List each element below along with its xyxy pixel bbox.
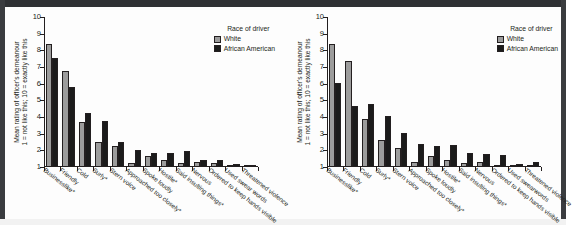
bar-group — [77, 17, 93, 167]
x-axis-label: Surly* — [374, 167, 391, 183]
legend-left: Race of driver White African American — [214, 25, 275, 54]
top-border-band — [0, 0, 566, 7]
x-axis-label: Surly* — [91, 167, 108, 183]
bar-african-american — [151, 153, 157, 167]
y-axis-tick-label: 10 — [33, 13, 41, 21]
bar-african-american — [200, 160, 206, 167]
bar-african-american — [69, 87, 75, 168]
legend-swatch-white-icon — [497, 36, 504, 43]
y-axis-tick-label: 7 — [37, 63, 41, 71]
legend-right: Race of driver White African American — [497, 25, 558, 54]
y-axis-tick-label: 9 — [37, 30, 41, 38]
y-axis-title-line1: Mean rating of officer's demeanour — [296, 41, 304, 143]
bar-group — [110, 17, 126, 167]
y-axis-tick-label: 6 — [320, 80, 324, 88]
y-axis-tick-label: 3 — [37, 130, 41, 138]
bar-group — [176, 17, 192, 167]
chart-panel-right: Mean rating of officer's demeanour 1 = n… — [283, 7, 566, 219]
bar-african-american — [401, 133, 407, 167]
legend-item-white: White — [497, 35, 558, 42]
bar-group — [376, 17, 392, 167]
bar-group — [93, 17, 109, 167]
x-axis-labels-left: Businesslike*FriendlyColdSurly*Stern voi… — [44, 167, 274, 219]
y-axis-tick-label: 5 — [37, 97, 41, 105]
y-axis-title-left: Mean rating of officer's demeanour 1 = n… — [4, 17, 38, 167]
legend-label-white: White — [507, 35, 524, 42]
y-axis-tick-label: 7 — [320, 63, 324, 71]
y-axis-tick-label: 3 — [320, 130, 324, 138]
bar-african-american — [434, 146, 440, 167]
bar-african-american — [52, 58, 58, 168]
bar-group — [426, 17, 442, 167]
bar-african-american — [184, 151, 190, 167]
bar-group — [327, 17, 343, 167]
bar-group — [409, 17, 425, 167]
legend-label-african-american: African American — [224, 45, 275, 52]
bar-african-american — [385, 116, 391, 167]
legend-item-african-american: African American — [214, 45, 275, 52]
bar-group — [360, 17, 376, 167]
y-axis-tick-label: 10 — [316, 13, 324, 21]
legend-title: Race of driver — [497, 25, 558, 32]
bar-african-american — [467, 153, 473, 168]
bar-group — [442, 17, 458, 167]
bar-group — [143, 17, 159, 167]
y-axis-tick-label: 4 — [37, 113, 41, 121]
chart-panel-left: Mean rating of officer's demeanour 1 = n… — [0, 7, 283, 219]
legend-item-african-american: African American — [497, 45, 558, 52]
y-axis-title-line2: 1 = not like this; 10 = exactly like thi… — [304, 38, 312, 145]
bar-african-american — [167, 153, 173, 167]
x-axis-labels-right: Businesslike*FriendlyColdSurly*Stern voi… — [327, 167, 557, 219]
bar-african-american — [335, 83, 341, 167]
y-axis-title-line1: Mean rating of officer's demeanour — [13, 41, 21, 143]
y-axis-tick-label: 5 — [320, 97, 324, 105]
legend-label-african-american: African American — [507, 45, 558, 52]
bar-african-american — [118, 142, 124, 168]
legend-swatch-white-icon — [214, 36, 221, 43]
bar-group — [126, 17, 142, 167]
bar-group — [475, 17, 491, 167]
y-axis-tick-label: 2 — [37, 147, 41, 155]
chart-panels: Mean rating of officer's demeanour 1 = n… — [0, 7, 566, 219]
bar-african-american — [85, 113, 91, 167]
bar-african-american — [500, 155, 506, 167]
y-axis-tick-label: 9 — [320, 30, 324, 38]
bar-group — [459, 17, 475, 167]
bar-group — [159, 17, 175, 167]
legend-title: Race of driver — [214, 25, 275, 32]
bar-group — [44, 17, 60, 167]
bar-african-american — [483, 154, 489, 167]
bar-group — [60, 17, 76, 167]
y-axis-title-line2: 1 = not like this; 10 = exactly like thi… — [21, 38, 29, 145]
legend-item-white: White — [214, 35, 275, 42]
bar-african-american — [102, 121, 108, 167]
y-axis-title-right: Mean rating of officer's demeanour 1 = n… — [287, 17, 321, 167]
y-axis-tick-label: 8 — [320, 47, 324, 55]
bar-african-american — [217, 160, 223, 167]
y-axis-tick-label: 8 — [37, 47, 41, 55]
legend-swatch-african-american-icon — [214, 45, 221, 52]
bar-african-american — [368, 104, 374, 167]
bar-african-american — [135, 150, 141, 167]
y-axis-tick-label: 2 — [320, 147, 324, 155]
y-axis-tick-label: 6 — [37, 80, 41, 88]
legend-label-white: White — [224, 35, 241, 42]
y-axis-tick-label: 1 — [37, 163, 41, 171]
legend-swatch-african-american-icon — [497, 45, 504, 52]
bar-african-american — [418, 144, 424, 167]
bar-african-american — [352, 106, 358, 167]
bar-group — [192, 17, 208, 167]
y-axis-tick-label: 4 — [320, 113, 324, 121]
y-axis-tick-label: 1 — [320, 163, 324, 171]
bottom-border-band — [0, 219, 566, 225]
bar-african-american — [450, 145, 456, 167]
bar-group — [393, 17, 409, 167]
bar-group — [343, 17, 359, 167]
